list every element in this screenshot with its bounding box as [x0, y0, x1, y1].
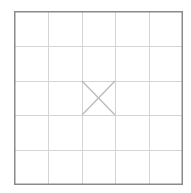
board-cell-r3-c1[interactable] [48, 115, 82, 150]
board-cell-r1-c3[interactable] [115, 46, 149, 81]
board-cell-r1-c4[interactable] [149, 46, 183, 81]
board-cell-r3-c0[interactable] [14, 115, 48, 150]
board-cell-r0-c4[interactable] [149, 11, 183, 46]
board-cell-r0-c2[interactable] [82, 11, 116, 46]
board-cell-r4-c3[interactable] [115, 150, 149, 185]
game-board [14, 11, 183, 185]
board-cell-r3-c4[interactable] [149, 115, 183, 150]
board-cell-r3-c3[interactable] [115, 115, 149, 150]
board-cell-r4-c0[interactable] [14, 150, 48, 185]
board-cell-r2-c4[interactable] [149, 81, 183, 116]
board-cell-r4-c1[interactable] [48, 150, 82, 185]
board-cell-r2-c3[interactable] [115, 81, 149, 116]
board-cell-r0-c1[interactable] [48, 11, 82, 46]
board-cell-r3-c2[interactable] [82, 115, 116, 150]
board-grid [14, 11, 183, 185]
board-cell-r0-c3[interactable] [115, 11, 149, 46]
board-cell-r1-c2[interactable] [82, 46, 116, 81]
board-cell-r1-c0[interactable] [14, 46, 48, 81]
board-cell-r0-c0[interactable] [14, 11, 48, 46]
board-cell-r4-c4[interactable] [149, 150, 183, 185]
board-cell-r2-c1[interactable] [48, 81, 82, 116]
board-cell-r4-c2[interactable] [82, 150, 116, 185]
board-cell-r2-c0[interactable] [14, 81, 48, 116]
board-cell-r1-c1[interactable] [48, 46, 82, 81]
